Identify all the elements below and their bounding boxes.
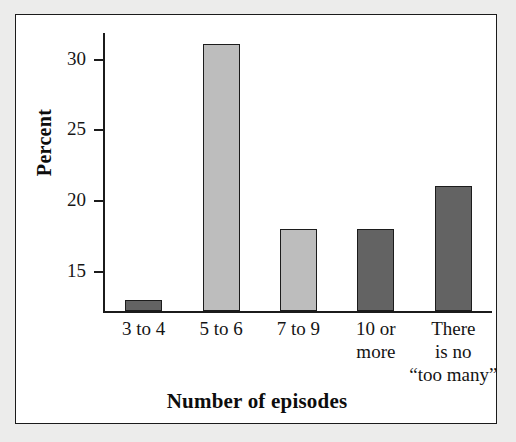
x-axis-title: Number of episodes <box>16 389 498 414</box>
y-axis-tick-label: 15 <box>24 261 86 280</box>
bar <box>357 229 394 311</box>
y-axis-tick-mark <box>94 271 104 273</box>
bar <box>125 300 162 311</box>
chart-figure-frame: 15202530 3 to 45 to 67 to 910 or moreThe… <box>15 14 497 424</box>
x-axis-category-label: 5 to 6 <box>176 317 265 340</box>
y-axis-tick-mark <box>94 200 104 202</box>
x-axis-category-label: There is no “too many” <box>409 317 498 386</box>
x-axis-line <box>103 311 492 313</box>
y-axis-title: Percent <box>33 93 56 193</box>
plot-area: 15202530 3 to 45 to 67 to 910 or moreThe… <box>16 15 498 425</box>
bar <box>435 186 472 311</box>
y-axis-tick-mark <box>94 129 104 131</box>
y-axis-tick-mark <box>94 59 104 61</box>
y-axis-tick-label: 20 <box>24 190 86 209</box>
x-axis-category-label: 7 to 9 <box>254 317 343 340</box>
bar <box>280 229 317 311</box>
x-axis-category-label: 3 to 4 <box>99 317 188 340</box>
bar <box>203 44 240 311</box>
x-axis-category-label: 10 or more <box>331 317 420 363</box>
y-axis-tick-label: 30 <box>24 49 86 68</box>
